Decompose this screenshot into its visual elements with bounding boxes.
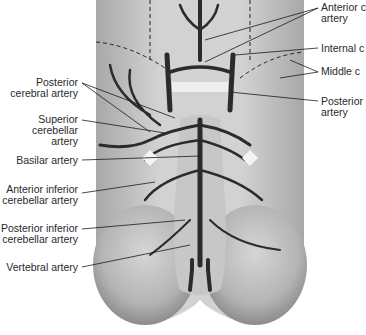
label-posterior-cerebral-artery: Posterior cerebral artery — [10, 77, 78, 99]
label-superior-cerebellar-artery: Superior cerebellar artery — [32, 114, 78, 147]
label-posterior-communicating-artery: Posterior artery — [321, 96, 363, 118]
label-posterior-inferior-cerebellar-artery: Posterior inferior cerebellar artery — [1, 223, 78, 245]
label-middle-cerebral-artery: Middle c — [321, 66, 360, 77]
label-vertebral-artery: Vertebral artery — [6, 262, 78, 273]
label-basilar-artery: Basilar artery — [16, 155, 78, 166]
label-internal-carotid-artery: Internal c — [321, 43, 364, 54]
label-anterior-inferior-cerebellar-artery: Anterior inferior cerebellar artery — [2, 184, 78, 206]
label-anterior-cerebral-artery: Anterior c artery — [321, 2, 366, 24]
